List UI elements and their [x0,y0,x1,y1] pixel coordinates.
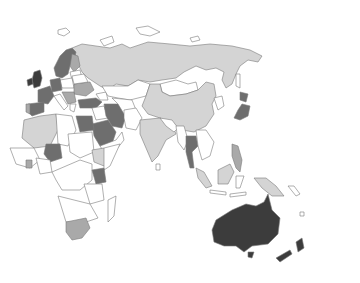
somalia [104,144,120,170]
svalbard [58,28,70,36]
new-zealand-south [276,250,292,262]
nigeria [36,158,52,174]
west-africa [10,148,40,168]
south-africa [66,218,90,240]
tanzania [84,184,104,204]
choropleth-map [0,0,360,283]
japan-hokkaido [240,92,248,102]
morocco-algeria [22,114,58,148]
turkey [78,98,102,108]
new-guinea [254,178,284,196]
ireland [27,78,33,86]
pacific-islands [288,186,300,196]
australia [212,194,280,252]
korea [214,96,224,110]
new-caledonia [300,212,304,216]
tasmania [248,252,254,258]
new-zealand-north [296,238,304,252]
philippines [232,144,242,172]
borneo [218,164,234,184]
franz-josef [136,26,160,36]
indochina [196,130,214,160]
sulawesi [236,176,244,188]
thailand [186,136,198,168]
poland [60,78,74,88]
java [210,190,226,195]
ukraine [74,82,94,96]
greece [70,104,76,112]
portugal [26,104,30,114]
united-kingdom [32,70,42,88]
novaya-zemlya [100,36,114,46]
lesser-sundas [230,192,246,197]
egypt [76,116,94,132]
sakhalin [236,74,240,88]
arctic-island-east [190,36,200,42]
japan [234,104,250,120]
madagascar [108,196,116,222]
kenya [92,168,106,184]
ghana [26,160,32,168]
sudan [68,132,94,158]
sumatra [196,168,212,188]
sri-lanka [156,164,160,170]
spain [28,102,44,116]
afghanistan-pakistan [124,108,142,130]
